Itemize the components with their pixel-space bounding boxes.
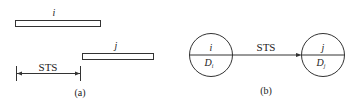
- bar-j: [83, 54, 154, 60]
- panel-b: i Di STS j Dj (b): [190, 34, 345, 98]
- arrow-left-icon: [17, 72, 22, 76]
- bar-i: [16, 21, 101, 27]
- node-i-top: i: [210, 42, 213, 53]
- panel-a: i j STS (a): [16, 7, 154, 99]
- interval-label: STS: [39, 61, 58, 73]
- caption-b: (b): [260, 85, 272, 97]
- sts-diagram: i j STS (a) i Di STS j Dj (b): [0, 0, 361, 109]
- edge-label: STS: [257, 41, 276, 53]
- caption-a: (a): [74, 87, 85, 99]
- bar-j-label: j: [113, 40, 118, 51]
- bar-i-label: i: [53, 7, 56, 18]
- arrow-right-icon: [75, 72, 80, 76]
